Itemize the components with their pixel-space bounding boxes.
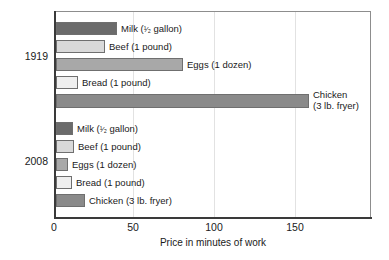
bar-label-2008-bread: Bread (1 pound) — [76, 178, 145, 189]
bar-2008-bread — [56, 176, 72, 189]
bar-label-1919-chicken: Chicken (3 lb. fryer) — [313, 90, 359, 111]
bar-2008-eggs — [56, 158, 68, 171]
bar-label-1919-chicken-line1: Chicken — [313, 89, 347, 100]
bar-2008-milk — [56, 122, 73, 135]
bar-label-2008-beef: Beef (1 pound) — [78, 142, 141, 153]
group-label-2008: 2008 — [8, 155, 48, 167]
gridline-150 — [295, 12, 296, 217]
x-axis-title: Price in minutes of work — [54, 237, 372, 248]
gridline-100 — [214, 12, 215, 217]
x-tick-150: 150 — [275, 221, 315, 233]
x-tick-50: 50 — [113, 221, 153, 233]
bar-label-1919-bread: Bread (1 pound) — [82, 78, 151, 89]
x-tick-100: 100 — [194, 221, 234, 233]
bar-2008-beef — [56, 140, 74, 153]
x-axis-line — [54, 217, 372, 219]
bar-1919-milk — [56, 22, 117, 35]
x-tick-0: 0 — [34, 221, 74, 233]
group-label-1919: 1919 — [8, 50, 48, 62]
bar-1919-eggs — [56, 58, 183, 71]
bar-label-1919-chicken-line2: (3 lb. fryer) — [313, 100, 359, 111]
bar-label-2008-eggs: Eggs (1 dozen) — [72, 160, 136, 171]
bar-1919-bread — [56, 76, 78, 89]
bar-chart: 1919 Milk (¹⁄₂ gallon) Beef (1 pound) Eg… — [0, 0, 389, 260]
bar-2008-chicken — [56, 194, 85, 207]
bar-label-1919-eggs: Eggs (1 dozen) — [187, 60, 251, 71]
bar-label-2008-milk: Milk (¹⁄₂ gallon) — [77, 124, 138, 136]
bar-label-1919-milk: Milk (¹⁄₂ gallon) — [121, 24, 182, 36]
bar-1919-beef — [56, 40, 105, 53]
bar-1919-chicken — [56, 94, 309, 108]
bar-label-2008-chicken: Chicken (3 lb. fryer) — [89, 196, 172, 207]
bar-label-1919-beef: Beef (1 pound) — [109, 42, 172, 53]
